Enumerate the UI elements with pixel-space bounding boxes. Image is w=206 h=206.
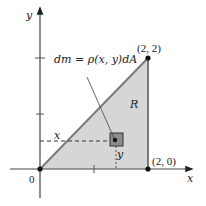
mass-region-diagram: y x 0 (2, 2) (2, 0) R dm = ρ(x, y)dA x y [0,0,206,206]
point-2-2 [145,55,150,60]
y-axis-label: y [25,9,33,22]
element-y-label: y [116,148,124,161]
point-2-2-label: (2, 2) [137,42,161,55]
formula-label: dm = ρ(x, y)dA [54,53,137,66]
area-element-point [113,138,117,142]
origin-label: 0 [29,173,35,185]
element-x-label: x [54,129,61,142]
point-2-0-label: (2, 0) [152,155,176,168]
region-label: R [129,98,138,111]
point-origin [37,166,42,171]
x-axis-label: x [187,172,194,185]
point-2-0 [145,166,150,171]
